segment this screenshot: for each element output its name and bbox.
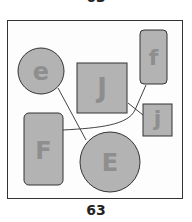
edge-J-j [128,103,143,115]
node-j-label: j [153,106,162,131]
node-j[interactable]: j [143,104,172,136]
node-f[interactable]: f [140,30,167,84]
node-J[interactable]: J [77,63,127,113]
node-J-label: J [95,73,107,103]
node-f-label: f [149,45,159,70]
node-F[interactable]: F [24,113,63,185]
node-E-label: E [102,149,118,177]
node-E[interactable]: E [80,132,140,192]
node-e[interactable]: e [18,48,64,94]
node-F-label: F [35,137,51,165]
page-number: 63 [0,202,192,218]
node-e-label: e [33,58,49,86]
diagram-canvas: e J f j F E [0,0,192,222]
